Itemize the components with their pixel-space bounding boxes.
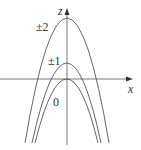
curve-label-pm2: ±2 — [36, 21, 49, 33]
curve-label-0: 0 — [53, 96, 59, 108]
curve-0 — [35, 79, 98, 143]
curve-pm1 — [32, 63, 101, 143]
x-axis-arrow-icon — [126, 77, 133, 82]
z-axis-label: z — [58, 5, 63, 17]
x-axis-label: x — [128, 83, 133, 95]
z-axis-arrow-icon — [65, 8, 70, 15]
contour-diagram — [0, 0, 141, 150]
curve-label-pm1: ±1 — [48, 55, 61, 67]
